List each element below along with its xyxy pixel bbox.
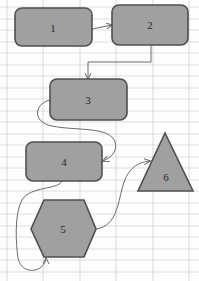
flowchart-svg: 1 2 3 4 5 6 — [0, 0, 199, 281]
node-2[interactable]: 2 — [112, 5, 188, 45]
diagram-canvas: 1 2 3 4 5 6 — [0, 0, 199, 281]
node-5[interactable]: 5 — [31, 200, 96, 257]
node-1-label: 1 — [50, 22, 56, 34]
connector-2-to-3[interactable] — [88, 45, 151, 79]
node-5-label: 5 — [60, 223, 66, 235]
node-4[interactable]: 4 — [26, 142, 102, 181]
node-3-label: 3 — [85, 94, 91, 106]
node-3[interactable]: 3 — [50, 79, 127, 120]
node-4-label: 4 — [61, 156, 67, 168]
node-2-label: 2 — [147, 19, 153, 31]
node-1[interactable]: 1 — [15, 8, 92, 46]
node-6-label: 6 — [163, 171, 169, 183]
connector-1-to-2[interactable] — [92, 25, 112, 29]
connector-5-to-6[interactable] — [96, 161, 150, 229]
